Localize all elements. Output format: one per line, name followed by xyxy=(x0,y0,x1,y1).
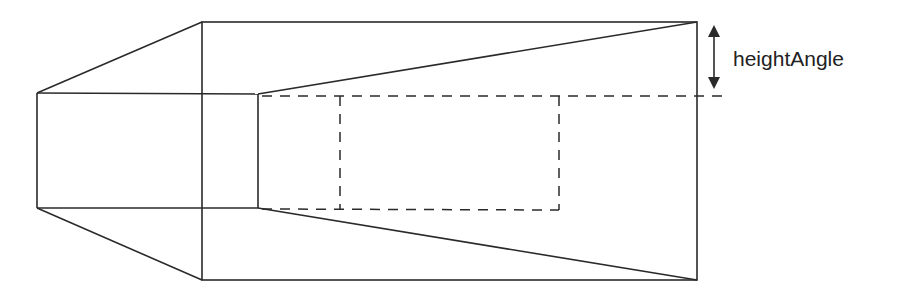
diag-bottom-left xyxy=(37,208,202,280)
diag-top-left xyxy=(37,22,202,93)
far-plane-rect xyxy=(202,22,697,280)
diag-top-right xyxy=(258,22,697,94)
frustum-diagram xyxy=(0,0,897,293)
height-angle-label: heightAngle xyxy=(733,47,844,71)
dashed-bottom-line xyxy=(262,209,559,210)
double-arrow-icon xyxy=(708,25,720,89)
near-top-edge xyxy=(37,93,258,94)
diag-bottom-right xyxy=(258,208,697,280)
